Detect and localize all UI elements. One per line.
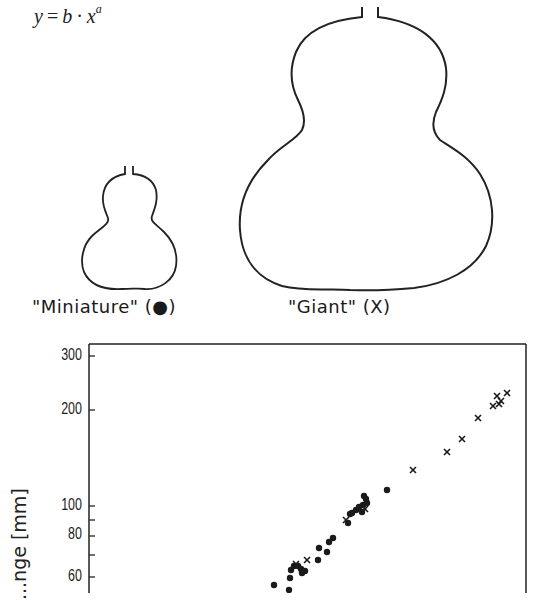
giant-point [504, 390, 510, 396]
giant-label: "Giant" (X) [288, 296, 391, 317]
miniature-point [315, 557, 321, 563]
y-tick-label: 300 [51, 346, 82, 364]
miniature-label: "Miniature" (●) [32, 296, 176, 317]
y-tick-label: 80 [51, 525, 82, 543]
giant-point [459, 436, 465, 442]
y-tick-label: 100 [51, 496, 82, 514]
giant-gourd-outline [240, 7, 493, 290]
miniature-point [330, 535, 336, 541]
chart-frame [89, 344, 526, 593]
miniature-point [324, 549, 330, 555]
y-axis-ticks [89, 356, 95, 577]
miniature-point [287, 575, 293, 581]
giant-point [444, 449, 450, 455]
y-axis-label: ...nge [mm] [8, 488, 30, 600]
miniature-point [364, 500, 370, 506]
giant-point [475, 415, 481, 421]
miniature-point [286, 587, 292, 593]
miniature-point [271, 582, 277, 588]
miniature-gourd-outline [82, 166, 176, 289]
miniature-point [316, 545, 322, 551]
giant-point [490, 403, 496, 409]
miniature-point [384, 487, 390, 493]
y-tick-label: 200 [51, 400, 82, 418]
giant-point [304, 557, 310, 563]
giant-point [410, 467, 416, 473]
miniature-point [361, 493, 367, 499]
scatter-points [271, 390, 510, 593]
miniature-point [302, 568, 308, 574]
y-tick-label: 60 [51, 567, 82, 585]
